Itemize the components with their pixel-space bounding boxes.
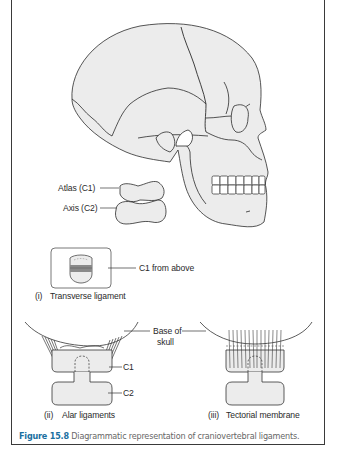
label-c1-from-above: C1 from above [139, 263, 194, 273]
figure-caption-text: Diagrammatic representation of craniover… [71, 431, 299, 441]
panel-iii-title: Tectorial membrane [226, 410, 300, 420]
panel-ii-title: Alar ligaments [62, 410, 115, 420]
label-skull: skull [157, 337, 174, 347]
label-base-of: Base of [153, 326, 181, 336]
skull-illustration [72, 24, 268, 227]
label-atlas-c1: Atlas (C1) [58, 183, 95, 193]
label-c2: C2 [123, 388, 134, 398]
panel-ii-index: (ii) [44, 410, 53, 420]
axis-vertebra [115, 200, 166, 224]
atlas-vertebra [120, 181, 164, 201]
label-c1: C1 [123, 362, 134, 372]
figure-caption: Figure 15.8 Diagrammatic representation … [19, 431, 299, 441]
craniovertebral-diagram [0, 0, 337, 454]
panel-iii-tectorial-membrane [200, 322, 312, 405]
figure-number: Figure 15.8 [19, 431, 69, 441]
panel-i-index: (i) [35, 291, 42, 301]
panel-i-transverse-ligament [51, 248, 136, 288]
panel-i-title: Transverse ligament [50, 291, 126, 301]
panel-iii-index: (iii) [208, 410, 219, 420]
label-axis-c2: Axis (C2) [63, 203, 97, 213]
